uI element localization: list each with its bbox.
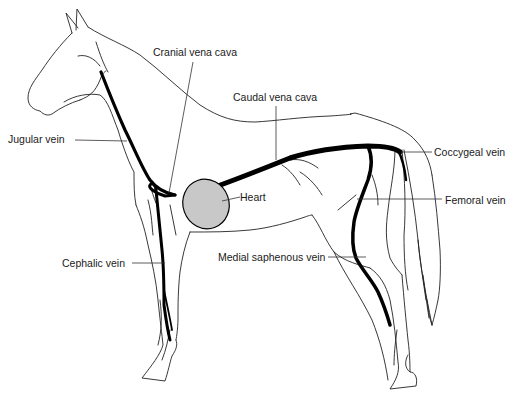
medial-saphenous-vein-path bbox=[353, 146, 390, 325]
veins bbox=[101, 72, 406, 340]
label-femoral-vein: Femoral vein bbox=[445, 194, 506, 206]
jugular-vein-path bbox=[101, 72, 175, 195]
label-heart: Heart bbox=[240, 191, 266, 203]
label-cranial-vena-cava: Cranial vena cava bbox=[153, 46, 237, 58]
leader-jugular-vein bbox=[75, 140, 127, 141]
leader-cranial-vena-cava bbox=[169, 62, 193, 193]
ear-right bbox=[76, 9, 88, 30]
label-coccygeal-vein: Coccygeal vein bbox=[434, 146, 505, 158]
label-cephalic-vein: Cephalic vein bbox=[62, 257, 125, 269]
label-jugular-vein: Jugular vein bbox=[8, 133, 65, 145]
cephalic-vein-path bbox=[150, 184, 175, 340]
anatomy-diagram: Cranial vena cava Caudal vena cava Jugul… bbox=[0, 0, 508, 400]
label-medial-saphenous-vein: Medial saphenous vein bbox=[218, 251, 325, 263]
label-caudal-vena-cava: Caudal vena cava bbox=[233, 91, 317, 103]
